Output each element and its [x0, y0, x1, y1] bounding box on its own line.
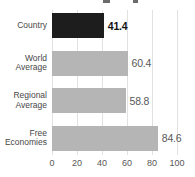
value-label: 60.4 — [132, 51, 152, 76]
x-axis-tick-label: 80 — [147, 158, 157, 168]
category-label: Free Economies — [0, 126, 47, 151]
category-label: World Average — [0, 51, 47, 76]
bar-default — [52, 126, 158, 151]
x-axis-tick-label: 100 — [169, 158, 184, 168]
x-axis-tick-label: 0 — [49, 158, 54, 168]
value-label: 58.8 — [130, 88, 150, 113]
category-label: Regional Average — [0, 88, 47, 113]
x-axis-tick-label: 60 — [122, 158, 132, 168]
bar-default — [52, 51, 128, 76]
x-axis-tick-label: 20 — [72, 158, 82, 168]
economic-freedom-bar-chart: Country41.4World Average60.4Regional Ave… — [0, 0, 195, 177]
value-label: 41.4 — [108, 13, 128, 38]
x-axis-tick-label: 40 — [97, 158, 107, 168]
cropped-title-remnant — [133, 0, 138, 3]
bar-highlight — [52, 13, 104, 38]
cropped-title-remnant — [103, 0, 110, 3]
bar-default — [52, 88, 126, 113]
category-label: Country — [0, 13, 47, 38]
value-label: 84.6 — [162, 126, 182, 151]
